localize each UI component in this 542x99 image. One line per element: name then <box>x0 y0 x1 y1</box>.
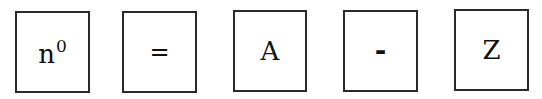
box-atomic-number: Z <box>454 9 529 91</box>
equals-symbol: = <box>149 40 169 64</box>
neutron-base: n <box>38 39 55 69</box>
box-mass-number: A <box>233 10 307 92</box>
box-equals: = <box>122 11 197 93</box>
minus-symbol: - <box>375 37 387 65</box>
atomic-number-symbol: Z <box>482 37 500 63</box>
neutron-symbol: n0 <box>38 38 67 67</box>
box-minus: - <box>343 10 418 92</box>
mass-number-symbol: A <box>261 38 280 64</box>
box-neutron: n0 <box>15 11 90 93</box>
neutron-superscript: 0 <box>56 36 67 56</box>
